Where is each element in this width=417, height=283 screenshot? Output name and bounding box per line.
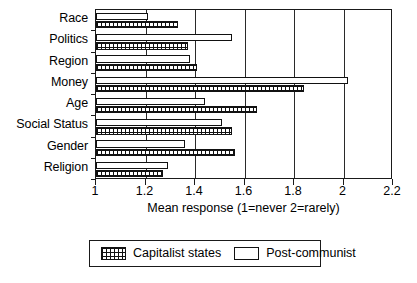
category-label: Gender xyxy=(47,140,88,153)
legend-entry-capitalist-states: Capitalist states xyxy=(101,247,221,260)
bar-post-communist xyxy=(96,119,222,126)
bar-group xyxy=(96,31,391,52)
bar-group xyxy=(96,10,391,31)
bar-capitalist-states xyxy=(96,64,197,71)
legend-label: Post-communist xyxy=(266,247,356,260)
bar-capitalist-states xyxy=(96,21,178,28)
category-axis-labels: RacePoliticsRegionMoneyAgeSocial StatusG… xyxy=(0,8,88,178)
plot-area-wrapper: RacePoliticsRegionMoneyAgeSocial StatusG… xyxy=(0,0,417,215)
x-tick-label: 1.6 xyxy=(235,185,252,198)
x-axis-tick-labels: 11.21.41.61.822.2 xyxy=(0,185,417,201)
bar-post-communist xyxy=(96,13,148,20)
bar-post-communist xyxy=(96,98,205,105)
bar-group xyxy=(96,138,391,159)
chart-legend: Capitalist states Post-communist xyxy=(89,240,321,267)
bar-post-communist xyxy=(96,140,185,147)
x-axis-label: Mean response (1=never 2=rarely) xyxy=(95,201,392,215)
bar-group xyxy=(96,53,391,74)
bar-group xyxy=(96,95,391,116)
bar-post-communist xyxy=(96,162,168,169)
category-label: Politics xyxy=(49,33,88,46)
legend-label: Capitalist states xyxy=(133,247,221,260)
legend-swatch-white-icon xyxy=(234,247,259,260)
bar-capitalist-states xyxy=(96,149,235,156)
bar-post-communist xyxy=(96,55,190,62)
legend-swatch-cross-hatch-icon xyxy=(101,247,126,260)
bar-capitalist-states xyxy=(96,127,232,134)
plot-area xyxy=(95,9,392,179)
x-tick-label: 1.8 xyxy=(284,185,301,198)
bar-post-communist xyxy=(96,77,348,84)
x-tick-label: 2 xyxy=(339,185,346,198)
bar-capitalist-states xyxy=(96,85,304,92)
category-label: Race xyxy=(59,12,88,25)
x-tick-label: 1.4 xyxy=(185,185,202,198)
bar-capitalist-states xyxy=(96,106,257,113)
grouped-bar-chart: RacePoliticsRegionMoneyAgeSocial StatusG… xyxy=(0,0,417,283)
bar-capitalist-states xyxy=(96,170,163,177)
x-tick-label: 2.2 xyxy=(383,185,400,198)
bar-post-communist xyxy=(96,34,232,41)
category-label: Religion xyxy=(44,161,88,174)
bar-capitalist-states xyxy=(96,42,188,49)
legend-entry-post-communist: Post-communist xyxy=(234,247,356,260)
category-label: Social Status xyxy=(16,118,88,131)
category-label: Money xyxy=(51,76,88,89)
category-label: Region xyxy=(49,55,88,68)
x-tick-label: 1 xyxy=(92,185,99,198)
bar-group xyxy=(96,116,391,137)
x-tick-label: 1.2 xyxy=(136,185,153,198)
bar-group xyxy=(96,159,391,180)
bar-group xyxy=(96,74,391,95)
category-label: Age xyxy=(66,97,88,110)
